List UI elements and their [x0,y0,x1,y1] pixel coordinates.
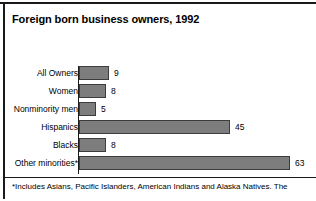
bar-row: Nonminority men5 [0,102,316,116]
category-label: Nonminority men [14,103,78,115]
chart-figure: Foreign born business owners, 1992 All O… [0,0,316,201]
bar-value-label: 45 [235,121,244,133]
bar-value-label: 8 [111,139,116,151]
category-label: Women [49,85,78,97]
bar [79,120,230,134]
bar [79,66,109,80]
bar [79,156,290,170]
bar-row: Other minorities*63 [0,156,316,170]
footnote-rule [3,177,316,178]
category-label: All Owners [37,67,78,79]
chart-footnote: *Includes Asians, Pacific Islanders, Ame… [12,182,312,193]
bar-value-label: 5 [101,103,106,115]
bar-value-label: 9 [114,67,119,79]
bar-value-label: 8 [111,85,116,97]
bar [79,102,96,116]
bar-row: Blacks8 [0,138,316,152]
top-rule [0,2,316,4]
category-label: Other minorities* [15,157,78,169]
category-label: Blacks [53,139,78,151]
bar [79,138,106,152]
bar-value-label: 63 [295,157,304,169]
plot-area: All Owners9Women8Nonminority men5Hispani… [0,66,316,174]
bar [79,84,106,98]
bar-row: Women8 [0,84,316,98]
chart-title: Foreign born business owners, 1992 [12,13,199,25]
bar-row: All Owners9 [0,66,316,80]
bar-row: Hispanics45 [0,120,316,134]
category-label: Hispanics [41,121,78,133]
